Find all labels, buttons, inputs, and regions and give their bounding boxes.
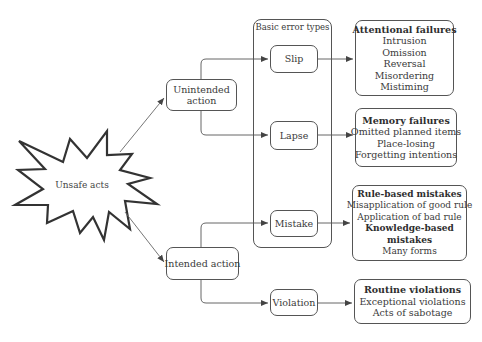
outcome-heading: Knowledge-based: [365, 223, 454, 235]
unintended-action-line-1: Unintended: [173, 84, 230, 96]
mistake-label: Mistake: [275, 218, 314, 230]
outcome-item: Omitted planned items: [351, 126, 461, 138]
outcome-item: Intrusion: [382, 35, 426, 47]
group-title: Basic error types: [254, 22, 331, 33]
outcome-item: Reversal: [384, 58, 426, 70]
outcome-item: Forgetting intentions: [355, 149, 457, 161]
slip-label: Slip: [285, 53, 304, 65]
mistakes-outcome-node: Rule-based mistakes Misapplication of go…: [352, 185, 467, 261]
outcome-item: Omission: [382, 47, 426, 59]
mistake-node: Mistake: [270, 210, 318, 237]
outcome-heading: mistakes: [387, 235, 432, 247]
attentional-failures-node: Attentional failures Intrusion Omission …: [355, 20, 454, 96]
outcome-item: Many forms: [382, 246, 437, 258]
outcome-item: Misordering: [375, 70, 434, 82]
outcome-heading: Rule-based mistakes: [357, 189, 461, 201]
edge-root-intended: [125, 212, 164, 262]
lapse-label: Lapse: [280, 130, 309, 142]
outcome-item: Exceptional violations: [359, 296, 465, 308]
outcome-heading: Attentional failures: [353, 24, 457, 36]
edge-root-unintended: [120, 98, 164, 152]
lapse-node: Lapse: [270, 121, 318, 150]
slip-node: Slip: [270, 45, 318, 73]
violation-label: Violation: [273, 297, 316, 309]
unintended-action-node: Unintended action: [166, 79, 237, 111]
outcome-item: Acts of sabotage: [373, 307, 453, 319]
violation-node: Violation: [270, 289, 318, 316]
edge-intended-violation: [201, 280, 268, 303]
intended-action-line-1: Intended action: [165, 258, 241, 270]
intended-action-node: Intended action: [166, 247, 239, 280]
outcome-heading: Memory failures: [362, 115, 450, 127]
outcome-item: Application of bad rule: [357, 212, 461, 224]
unsafe-acts-label: Unsafe acts: [42, 180, 122, 190]
outcome-heading: Routine violations: [364, 284, 461, 296]
violations-outcome-node: Routine violations Exceptional violation…: [354, 279, 471, 324]
outcome-item: Place-losing: [377, 138, 435, 150]
outcome-item: Mistiming: [380, 81, 429, 93]
memory-failures-node: Memory failures Omitted planned items Pl…: [355, 108, 457, 167]
outcome-item: Misapplication of good rule: [347, 200, 472, 212]
unintended-action-line-2: action: [187, 95, 217, 107]
